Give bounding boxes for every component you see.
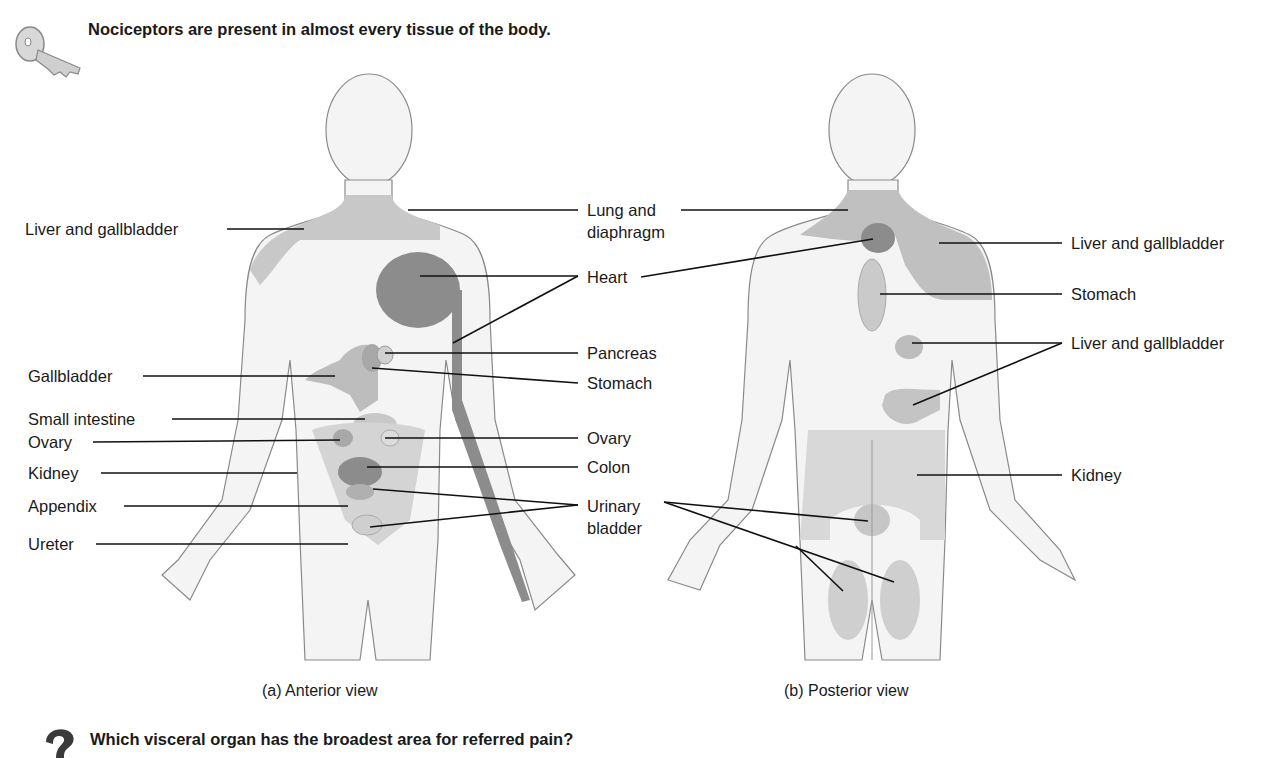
label-urinary-bladder-line2: bladder [587, 518, 642, 539]
label-ovary-left: Ovary [28, 432, 72, 453]
label-ureter: Ureter [28, 534, 74, 555]
label-liver-gallbladder-posterior-2: Liver and gallbladder [1071, 333, 1224, 354]
label-lung-diaphragm-line2: diaphragm [587, 222, 665, 243]
label-kidney-posterior: Kidney [1071, 465, 1121, 486]
label-kidney-anterior: Kidney [28, 463, 78, 484]
label-heart: Heart [587, 267, 627, 288]
caption-anterior: (a) Anterior view [262, 682, 378, 700]
label-pancreas: Pancreas [587, 343, 657, 364]
label-small-intestine: Small intestine [28, 409, 135, 430]
label-stomach-anterior: Stomach [587, 373, 652, 394]
label-lung-diaphragm-line1: Lung and [587, 200, 656, 221]
label-liver-gallbladder-posterior-1: Liver and gallbladder [1071, 233, 1224, 254]
label-colon: Colon [587, 457, 630, 478]
label-appendix: Appendix [28, 496, 97, 517]
label-gallbladder: Gallbladder [28, 366, 112, 387]
caption-posterior: (b) Posterior view [784, 682, 908, 700]
label-liver-gallbladder-anterior: Liver and gallbladder [25, 219, 178, 240]
label-urinary-bladder-line1: Urinary [587, 496, 640, 517]
label-ovary-right: Ovary [587, 428, 631, 449]
label-stomach-posterior: Stomach [1071, 284, 1136, 305]
